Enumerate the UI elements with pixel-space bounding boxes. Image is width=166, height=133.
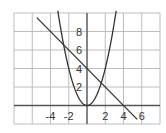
x-tick-label: -2 [64, 110, 74, 122]
x-tick-label: 2 [102, 110, 108, 122]
y-tick-label: 2 [76, 81, 82, 93]
x-tick-label: 4 [120, 110, 126, 122]
y-tick-label: 8 [76, 26, 82, 38]
x-tick-label: 6 [139, 110, 145, 122]
tick-labels: -4-22462468 [46, 26, 145, 122]
chart: -4-22462468 [0, 0, 166, 133]
y-tick-label: 4 [76, 63, 82, 75]
y-tick-label: 6 [76, 44, 82, 56]
x-tick-label: -4 [46, 110, 56, 122]
